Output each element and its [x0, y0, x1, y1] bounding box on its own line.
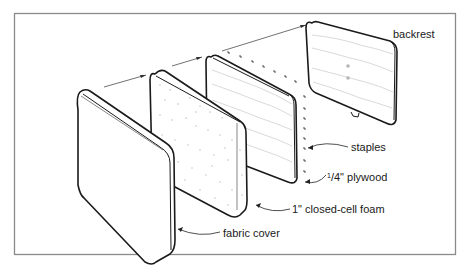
- label-backrest: backrest: [393, 28, 435, 40]
- exploded-backrest-diagram: backrest staples 1/4" plywood 1" closed-…: [0, 0, 467, 271]
- backrest-part: [306, 22, 397, 125]
- label-foam: 1" closed-cell foam: [292, 203, 385, 215]
- alignment-arrows: [104, 25, 306, 87]
- label-fabric-cover: fabric cover: [223, 227, 280, 239]
- label-plywood-rest: /4" plywood: [331, 171, 388, 183]
- label-staples: staples: [351, 141, 386, 153]
- label-plywood: 1/4" plywood: [327, 171, 387, 183]
